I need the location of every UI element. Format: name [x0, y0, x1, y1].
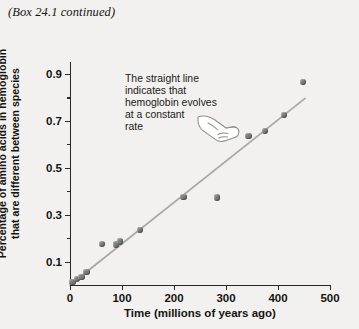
- y-tick: [65, 74, 70, 75]
- x-tick-label: 0: [67, 292, 73, 304]
- x-tick-label: 300: [216, 292, 235, 304]
- y-tick-label: 0.1: [46, 256, 62, 268]
- y-tick: [65, 262, 70, 263]
- x-axis-line: [70, 285, 330, 286]
- x-tick: [122, 285, 123, 290]
- y-tick-minor: [67, 191, 71, 192]
- y-tick-label: 0.5: [46, 162, 62, 174]
- x-tick-label: 200: [164, 292, 183, 304]
- y-axis-title-text: Percentage of amino acids in hemoglobin …: [0, 42, 21, 265]
- x-tick: [70, 285, 71, 290]
- data-point: [117, 238, 123, 244]
- y-tick-minor: [67, 238, 71, 239]
- data-point: [180, 194, 186, 200]
- x-tick: [330, 285, 331, 290]
- box-continued-note: (Box 24.1 continued): [8, 5, 115, 20]
- y-tick: [65, 121, 70, 122]
- y-tick-minor: [67, 97, 71, 98]
- y-axis-title: Percentage of amino acids in hemoglobin …: [0, 42, 21, 265]
- y-tick-label: 0.9: [46, 68, 62, 80]
- y-tick-label: 0.3: [46, 209, 62, 221]
- y-tick-label: 0.7: [46, 115, 62, 127]
- pointing-hand-icon: [196, 108, 248, 150]
- x-tick: [226, 285, 227, 290]
- y-tick-minor: [67, 144, 71, 145]
- x-tick-label: 400: [268, 292, 287, 304]
- y-tick: [65, 168, 70, 169]
- x-tick-label: 500: [320, 292, 339, 304]
- data-point: [83, 269, 89, 275]
- x-axis-title: Time (millions of years ago): [70, 307, 330, 319]
- x-tick-label: 100: [112, 292, 131, 304]
- data-point: [214, 194, 220, 200]
- x-tick: [278, 285, 279, 290]
- figure-panel: (Box 24.1 continued) Percentage of amino…: [0, 0, 359, 329]
- y-tick: [65, 215, 70, 216]
- x-tick: [174, 285, 175, 290]
